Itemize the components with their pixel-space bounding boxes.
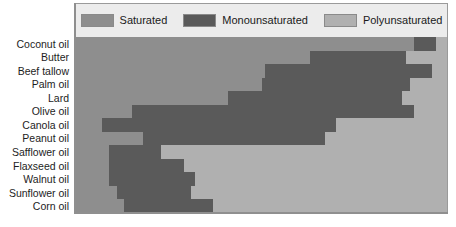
bar-segment[interactable] [109, 159, 183, 173]
y-axis-labels: Coconut oilButterBeef tallowPalm oilLard… [0, 37, 72, 213]
bar-segment[interactable] [76, 64, 265, 78]
y-axis-tick-label: Beef tallow [0, 64, 72, 78]
y-axis-tick-label: Olive oil [0, 105, 72, 119]
bar-segment[interactable] [109, 172, 194, 186]
bar-row[interactable] [76, 105, 447, 119]
y-axis-tick-label: Corn oil [0, 199, 72, 213]
bar-row[interactable] [76, 199, 447, 213]
legend-label: Polyunsaturated [363, 15, 443, 26]
stacked-bar-chart: SaturatedMonounsaturatedPolyunsaturated … [0, 0, 456, 227]
y-axis-tick-label: Butter [0, 51, 72, 65]
plot-area [76, 37, 447, 213]
bar-segment[interactable] [117, 186, 191, 200]
bar-segment[interactable] [124, 199, 213, 213]
bar-segment[interactable] [76, 199, 124, 213]
y-axis-tick-label: Walnut oil [0, 172, 72, 186]
bar-segment[interactable] [410, 78, 447, 92]
y-axis-tick-label: Safflower oil [0, 145, 72, 159]
bar-segment[interactable] [132, 105, 414, 119]
bar-segment[interactable] [228, 91, 402, 105]
bar-segment[interactable] [76, 159, 109, 173]
bar-segment[interactable] [414, 105, 447, 119]
bar-segment[interactable] [310, 51, 406, 65]
bar-segment[interactable] [262, 78, 410, 92]
bar-segment[interactable] [143, 132, 325, 146]
bar-row[interactable] [76, 64, 447, 78]
legend-entry[interactable]: Saturated [81, 14, 168, 27]
legend-swatch-icon [183, 14, 216, 27]
bar-segment[interactable] [76, 145, 109, 159]
legend-swatch-icon [81, 14, 114, 27]
y-axis-tick-label: Flaxseed oil [0, 159, 72, 173]
bar-segment[interactable] [76, 51, 310, 65]
y-axis-tick-label: Sunflower oil [0, 186, 72, 200]
bar-row[interactable] [76, 159, 447, 173]
y-axis-tick-label: Peanut oil [0, 132, 72, 146]
bar-segment[interactable] [402, 91, 447, 105]
bar-segment[interactable] [76, 118, 102, 132]
bar-segment[interactable] [184, 159, 447, 173]
bar-segment[interactable] [76, 37, 414, 51]
bar-segment[interactable] [76, 172, 109, 186]
y-axis-tick-label: Coconut oil [0, 37, 72, 51]
y-axis-tick-label: Palm oil [0, 78, 72, 92]
bar-row[interactable] [76, 118, 447, 132]
bar-segment[interactable] [76, 132, 143, 146]
bar-segment[interactable] [213, 199, 447, 213]
legend-entry[interactable]: Monounsaturated [183, 14, 308, 27]
bar-row[interactable] [76, 132, 447, 146]
bar-segment[interactable] [76, 186, 117, 200]
bar-segment[interactable] [414, 37, 436, 51]
bar-segment[interactable] [191, 186, 447, 200]
bar-segment[interactable] [325, 132, 447, 146]
chart-legend: SaturatedMonounsaturatedPolyunsaturated [76, 4, 447, 37]
y-axis-tick-label: Canola oil [0, 118, 72, 132]
bar-row[interactable] [76, 51, 447, 65]
bar-row[interactable] [76, 186, 447, 200]
bar-row[interactable] [76, 78, 447, 92]
bar-segment[interactable] [102, 118, 336, 132]
bar-segment[interactable] [76, 105, 132, 119]
legend-label: Saturated [120, 15, 168, 26]
bar-segment[interactable] [161, 145, 447, 159]
bar-segment[interactable] [76, 78, 262, 92]
legend-swatch-icon [324, 14, 357, 27]
y-axis-tick-label: Lard [0, 91, 72, 105]
bar-segment[interactable] [76, 91, 228, 105]
bar-segment[interactable] [436, 37, 447, 51]
bar-segment[interactable] [336, 118, 447, 132]
bar-segment[interactable] [406, 51, 447, 65]
bar-row[interactable] [76, 145, 447, 159]
bar-row[interactable] [76, 37, 447, 51]
bar-segment[interactable] [432, 64, 447, 78]
y-axis-spine [74, 3, 76, 214]
bar-segment[interactable] [109, 145, 161, 159]
bar-segment[interactable] [265, 64, 432, 78]
bar-segment[interactable] [195, 172, 447, 186]
bar-row[interactable] [76, 172, 447, 186]
x-axis-spine [75, 212, 448, 214]
bar-row[interactable] [76, 91, 447, 105]
legend-label: Monounsaturated [222, 15, 308, 26]
legend-entry[interactable]: Polyunsaturated [324, 14, 443, 27]
